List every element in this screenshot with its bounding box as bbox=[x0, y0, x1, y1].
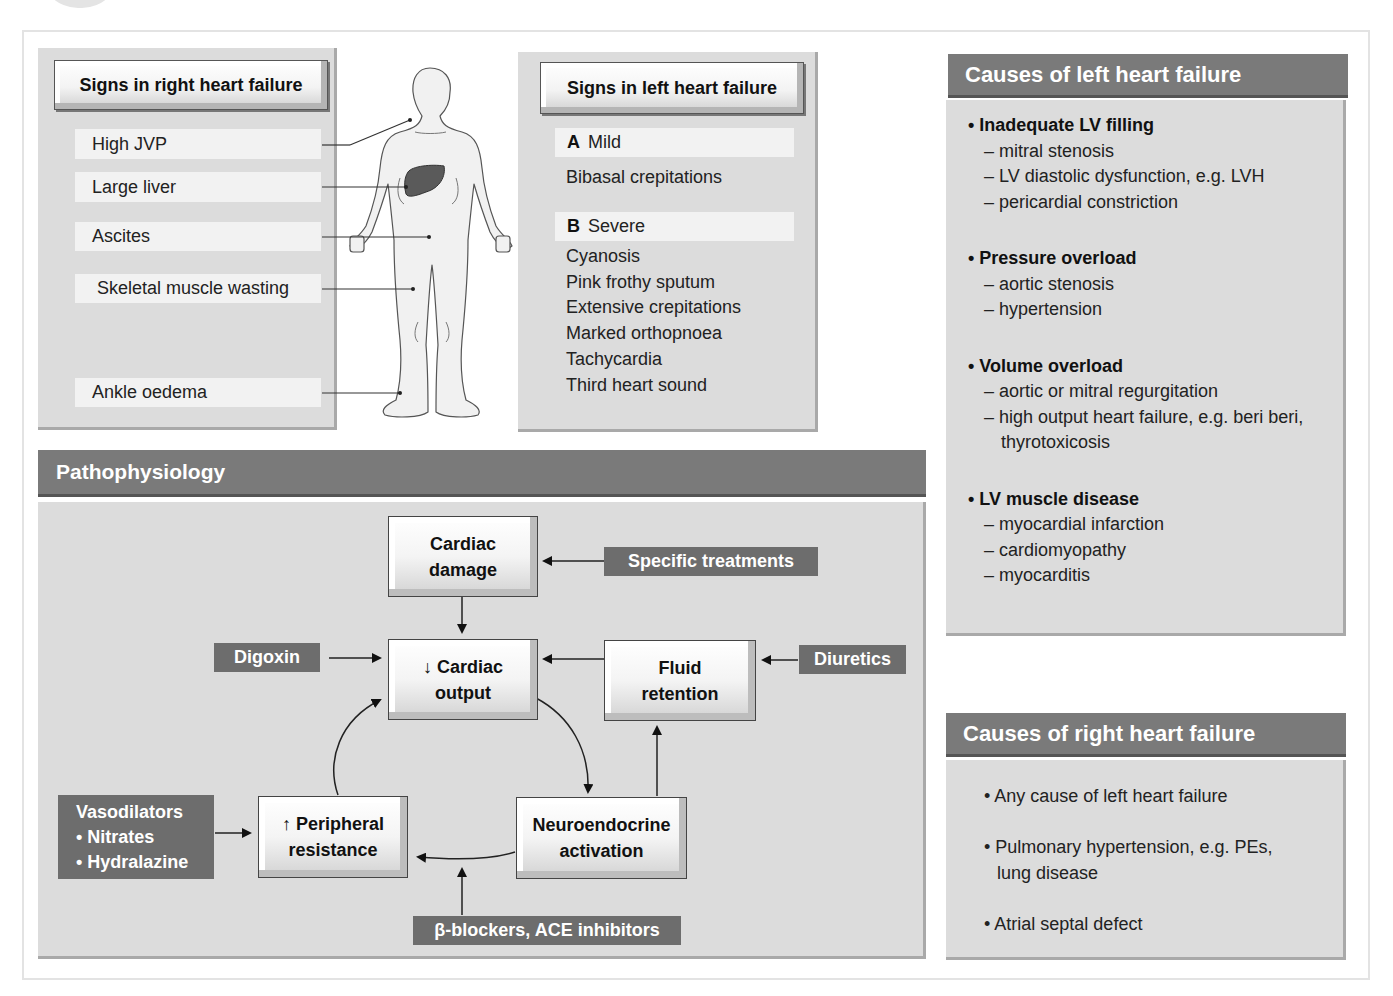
box-text: resistance bbox=[282, 837, 384, 863]
box-text: ↑ Peripheral bbox=[282, 811, 384, 837]
drug-vasodilators: Vasodilators • Nitrates • Hydralazine bbox=[58, 795, 214, 879]
box-text: ↓ Cardiac bbox=[423, 654, 503, 680]
vasodilators-heading: Vasodilators bbox=[76, 800, 214, 825]
box-text: output bbox=[423, 680, 503, 706]
vasodilator-item: • Nitrates bbox=[76, 825, 214, 850]
box-text: Cardiac bbox=[429, 531, 497, 557]
drug-digoxin: Digoxin bbox=[214, 643, 320, 672]
box-cardiac-damage: Cardiacdamage bbox=[388, 516, 538, 597]
box-text: retention bbox=[641, 681, 718, 707]
box-neuroendocrine: Neuroendocrineactivation bbox=[516, 797, 687, 879]
box-peripheral-resistance: ↑ Peripheralresistance bbox=[258, 796, 408, 878]
drug-diuretics: Diuretics bbox=[799, 645, 906, 674]
box-text: activation bbox=[532, 838, 670, 864]
drug-specific-treatments: Specific treatments bbox=[604, 547, 818, 576]
drug-beta-ace: β-blockers, ACE inhibitors bbox=[413, 916, 681, 945]
box-text: Fluid bbox=[641, 655, 718, 681]
box-cardiac-output: ↓ Cardiacoutput bbox=[388, 639, 538, 720]
box-fluid-retention: Fluidretention bbox=[604, 640, 756, 721]
box-text: damage bbox=[429, 557, 497, 583]
box-text: Neuroendocrine bbox=[532, 812, 670, 838]
vasodilator-item: • Hydralazine bbox=[76, 850, 214, 875]
